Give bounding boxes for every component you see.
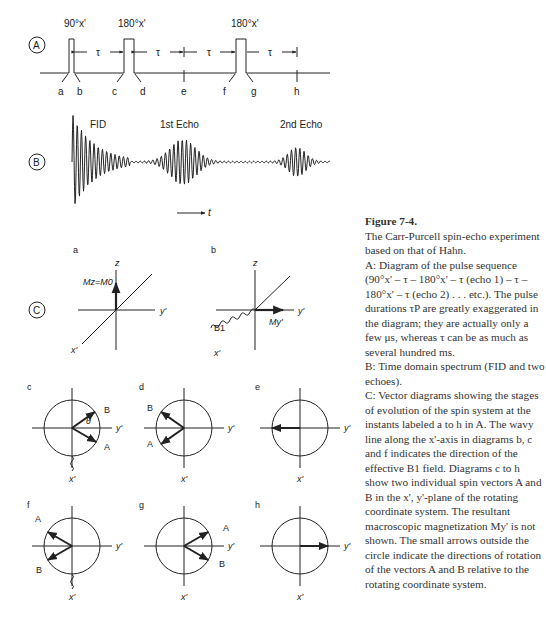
- panel-a-pulse-sequence: [29, 37, 330, 82]
- angle-label: θ: [86, 416, 91, 426]
- magnetization-label: My': [269, 317, 283, 327]
- circle-diagrams: cy'x'BAθdy'x'BAey'x'fy'x'ABgy'x'ABhy'x': [27, 382, 351, 602]
- x-axis-label: x': [180, 592, 188, 602]
- caption-paragraph: The Carr-Purcell spin-echo experiment ba…: [365, 229, 545, 258]
- vector-b-label: B: [219, 559, 225, 569]
- figure-caption: Figure 7-4. The Carr-Purcell spin-echo e…: [365, 214, 545, 591]
- instant-e: e: [181, 86, 187, 97]
- panel-label-b: B: [33, 157, 40, 168]
- tau-label: τ: [268, 47, 272, 58]
- x-axis-label: x': [213, 348, 221, 358]
- pulse-label-180-1: 180°x': [118, 18, 146, 29]
- vector-a-label: A: [223, 523, 229, 533]
- diagram-label: f: [27, 500, 30, 510]
- pulse-label-90: 90°x': [64, 18, 86, 29]
- tau-label: τ: [96, 47, 100, 58]
- instant-a: a: [58, 86, 64, 97]
- vector-diagram-a: a z y' x' Mz=M0: [70, 245, 167, 355]
- magnetization-label: Mz=M0: [83, 277, 113, 287]
- y-axis-label: y': [159, 306, 167, 316]
- instant-d: d: [140, 86, 146, 97]
- diagram-label: g: [139, 500, 144, 510]
- vector-diagram-h: hy'x': [255, 500, 351, 602]
- panel-label-c: C: [33, 305, 40, 316]
- diagram-label: c: [27, 382, 32, 392]
- caption-paragraph: B: Time domain spectrum (FID and two ech…: [365, 359, 545, 388]
- tau-label: τ: [207, 47, 211, 58]
- instant-h: h: [294, 86, 300, 97]
- vector-diagram-d: dy'x'BA: [139, 382, 235, 484]
- b1-field-label: B1: [214, 323, 225, 333]
- time-arrow-label: t: [208, 207, 212, 218]
- x-axis-label: x': [296, 474, 304, 484]
- vector-a-label: A: [104, 442, 110, 452]
- echo-2-label: 2nd Echo: [280, 119, 323, 130]
- instant-c: c: [112, 86, 117, 97]
- echo-1-label: 1st Echo: [160, 119, 199, 130]
- y-axis-label: y': [115, 541, 123, 551]
- vector-b-label: B: [36, 565, 42, 575]
- y-axis-label: y': [343, 423, 351, 433]
- vector-b-label: B: [147, 403, 153, 413]
- panel-a-labels: A 90°x' 180°x' 180°x' τ τ τ τ a b c d e …: [33, 18, 300, 97]
- diagram-label: e: [255, 382, 260, 392]
- caption-paragraph: A: Diagram of the pulse sequence (90°x' …: [365, 258, 545, 360]
- instant-b: b: [77, 86, 83, 97]
- y-axis-label: y': [297, 306, 305, 316]
- vector-a-label: A: [147, 439, 153, 449]
- caption-title: Figure 7-4.: [365, 214, 545, 229]
- diagram-label: h: [255, 500, 260, 510]
- diagram-label: d: [139, 382, 144, 392]
- vector-a-label: A: [35, 514, 41, 524]
- vector-diagram-b: b z y' x' B1 My': [211, 245, 305, 358]
- instant-f: f: [223, 86, 226, 97]
- vector-diagram-f: fy'x'AB: [27, 500, 123, 602]
- diagram-label: b: [211, 245, 216, 255]
- tau-label: τ: [156, 47, 160, 58]
- caption-paragraph: C: Vector diagrams showing the stages of…: [365, 388, 545, 591]
- z-axis-label: z: [114, 258, 120, 268]
- x-axis-label: x': [68, 592, 76, 602]
- x-axis-label: x': [70, 345, 78, 355]
- x-axis-label: x': [296, 592, 304, 602]
- x-axis-label: x': [180, 474, 188, 484]
- diagram-label: a: [73, 245, 78, 255]
- vector-b-label: B: [104, 405, 110, 415]
- instant-g: g: [251, 86, 257, 97]
- z-axis-label: z: [252, 258, 258, 268]
- y-axis-label: y': [115, 423, 123, 433]
- vector-diagram-g: gy'x'AB: [139, 500, 235, 602]
- panel-label-a: A: [33, 40, 40, 51]
- y-axis-label: y': [227, 541, 235, 551]
- y-axis-label: y': [227, 423, 235, 433]
- x-axis-label: x': [68, 474, 76, 484]
- pulse-label-180-2: 180°x': [231, 18, 259, 29]
- panel-b-signal: B FID 1st Echo 2nd Echo t: [29, 116, 330, 219]
- y-axis-label: y': [343, 541, 351, 551]
- fid-label: FID: [90, 119, 106, 130]
- vector-diagram-e: ey'x': [255, 382, 351, 484]
- vector-diagram-c: cy'x'BAθ: [27, 382, 123, 484]
